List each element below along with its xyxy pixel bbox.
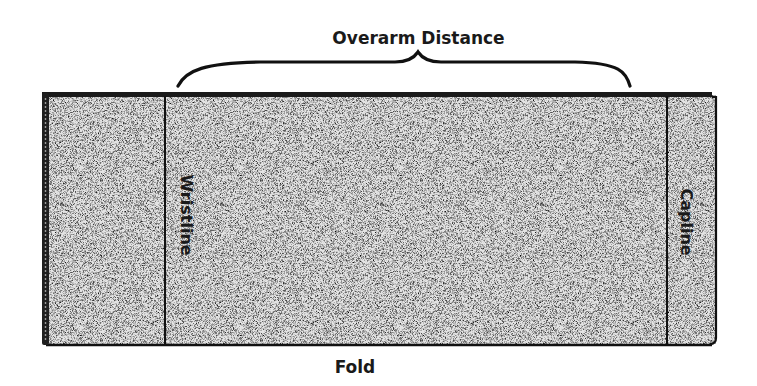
- overarm-distance-label: Overarm Distance: [0, 28, 757, 48]
- fabric-texture: [44, 95, 716, 344]
- overarm-brace: [178, 52, 630, 86]
- wristline-label: Wristline: [177, 175, 196, 255]
- top-edge: [42, 92, 712, 97]
- diagram-canvas: [0, 0, 757, 386]
- fold-label: Fold: [0, 357, 710, 377]
- capline-label: Capline: [677, 189, 696, 255]
